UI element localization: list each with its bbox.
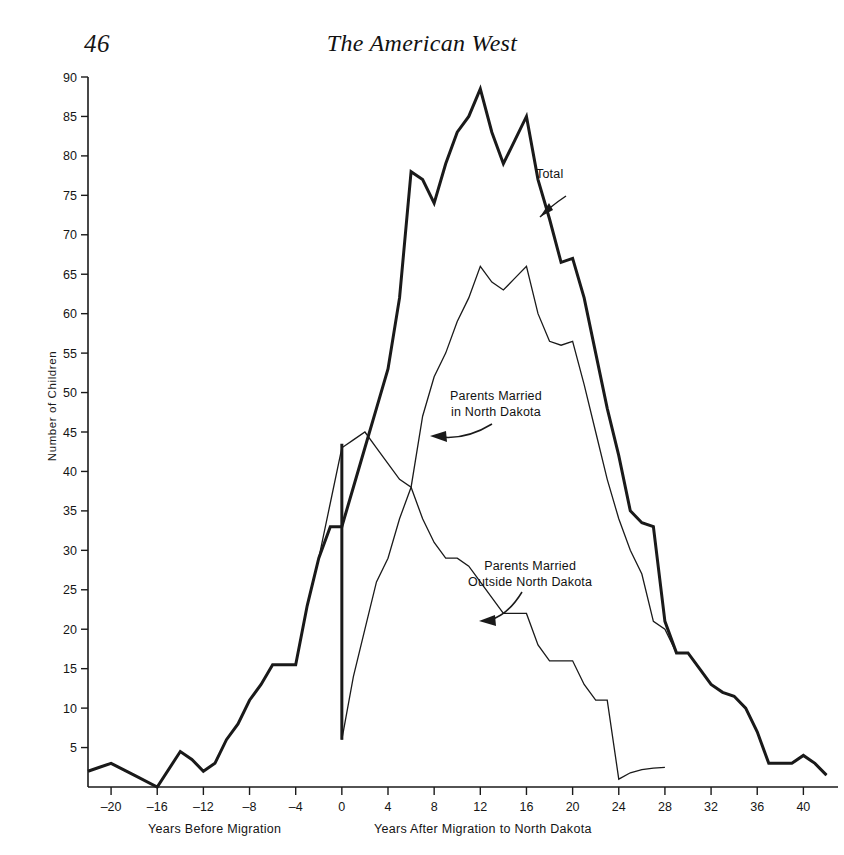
x-tick-label: –12	[193, 800, 214, 814]
annotation-total: Total	[536, 166, 563, 182]
x-axis-ticks: –20–16–12–8–40481216202428323640	[101, 787, 811, 814]
annotation-married-in-nd-line2: in North Dakota	[450, 404, 542, 420]
y-tick-label: 25	[63, 583, 77, 597]
married-in-nd-arrowhead	[430, 431, 447, 442]
x-tick-label: 12	[473, 800, 487, 814]
x-tick-label: 24	[612, 800, 626, 814]
annotation-married-outside-north-dakota: Parents Married Outside North Dakota	[468, 558, 592, 590]
y-tick-label: 30	[63, 544, 77, 558]
y-tick-label: 55	[63, 347, 77, 361]
x-tick-label: 28	[658, 800, 672, 814]
line-chart: 51015202530354045505560657075808590 –20–…	[0, 0, 844, 855]
x-tick-label: 16	[520, 800, 534, 814]
y-axis-ticks: 51015202530354045505560657075808590	[63, 71, 88, 756]
y-tick-label: 15	[63, 662, 77, 676]
figure-page: 46 The American West 5101520253035404550…	[0, 0, 844, 855]
x-tick-label: –4	[289, 800, 303, 814]
x-tick-label: 4	[385, 800, 392, 814]
y-tick-label: 50	[63, 386, 77, 400]
x-tick-label: 36	[750, 800, 764, 814]
x-tick-label: 20	[566, 800, 580, 814]
y-tick-label: 65	[63, 268, 77, 282]
x-tick-label: 40	[796, 800, 810, 814]
x-tick-label: 8	[431, 800, 438, 814]
x-tick-label: 32	[704, 800, 718, 814]
annotation-married-outside-nd-line1: Parents Married	[468, 558, 592, 574]
y-tick-label: 5	[70, 741, 77, 755]
x-axis-caption-left: Years Before Migration	[148, 822, 281, 836]
married-outside-nd-arrowhead	[479, 615, 496, 626]
x-tick-label: –8	[243, 800, 257, 814]
x-tick-label: –20	[101, 800, 122, 814]
y-tick-label: 80	[63, 149, 77, 163]
y-tick-label: 75	[63, 189, 77, 203]
series-line-1	[88, 89, 826, 787]
y-axis-label: Number of Children	[46, 306, 58, 506]
y-tick-label: 70	[63, 228, 77, 242]
chart-svg: 51015202530354045505560657075808590 –20–…	[0, 0, 844, 855]
data-series	[88, 89, 826, 787]
annotation-married-outside-nd-line2: Outside North Dakota	[468, 574, 592, 590]
y-tick-label: 60	[63, 307, 77, 321]
married-in-nd-leader-line	[440, 424, 492, 437]
y-tick-label: 20	[63, 623, 77, 637]
y-tick-label: 40	[63, 465, 77, 479]
y-tick-label: 90	[63, 71, 77, 85]
x-tick-label: –16	[147, 800, 168, 814]
y-tick-label: 10	[63, 702, 77, 716]
x-tick-label: 0	[338, 800, 345, 814]
series-line-3	[88, 432, 665, 787]
annotation-married-in-north-dakota: Parents Married in North Dakota	[450, 388, 542, 420]
axes	[88, 77, 838, 787]
y-tick-label: 45	[63, 426, 77, 440]
annotation-married-in-nd-line1: Parents Married	[450, 388, 542, 404]
series-line-2	[342, 266, 827, 775]
x-axis-caption-right: Years After Migration to North Dakota	[374, 822, 592, 836]
y-tick-label: 35	[63, 504, 77, 518]
y-tick-label: 85	[63, 110, 77, 124]
